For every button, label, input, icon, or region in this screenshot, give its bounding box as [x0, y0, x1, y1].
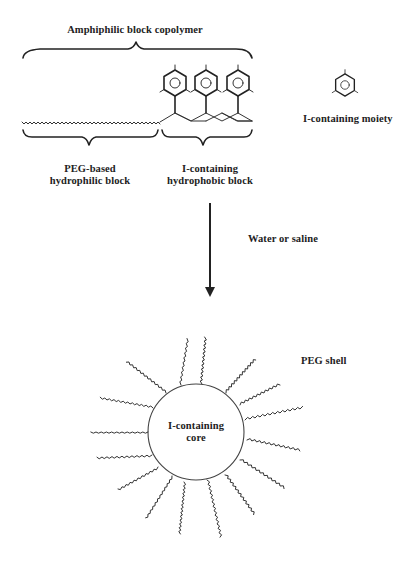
peg-chain	[22, 122, 160, 124]
i-block-line2: hydrophobic block	[155, 175, 265, 187]
copolymer-title: Amphiphilic block copolymer	[40, 24, 230, 36]
peg-block-brace	[23, 130, 158, 145]
peg-block-label: PEG-based hydrophilic block	[30, 163, 150, 187]
copolymer-brace	[23, 42, 252, 58]
benzene-ring-icon	[332, 70, 358, 96]
process-label: Water or saline	[248, 233, 318, 245]
core-line2: core	[146, 432, 246, 444]
shell-label: PEG shell	[301, 355, 347, 367]
pendant-moiety-icon-1	[160, 65, 190, 96]
peg-block-line2: hydrophilic block	[30, 175, 150, 187]
moiety-label: I-containing moiety	[303, 113, 393, 125]
copolymer-micelle-diagram	[0, 0, 410, 575]
i-block-brace	[162, 130, 252, 145]
core-label: I-containing core	[146, 420, 246, 444]
pendant-moiety-icon-2	[191, 65, 221, 96]
i-block-line1: I-containing	[155, 163, 265, 175]
peg-block-line1: PEG-based	[30, 163, 150, 175]
i-block-label: I-containing hydrophobic block	[155, 163, 265, 187]
core-line1: I-containing	[146, 420, 246, 432]
pendant-moiety-icon-3	[223, 65, 253, 96]
